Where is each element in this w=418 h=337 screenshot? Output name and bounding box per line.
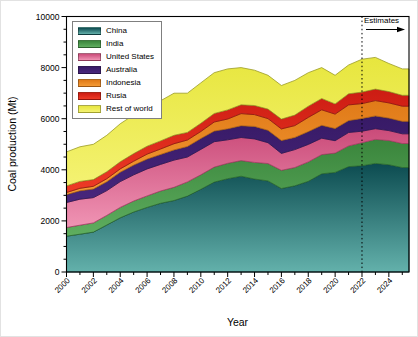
legend-swatch-china: [78, 27, 101, 35]
x-tick-label: 2010: [187, 276, 206, 295]
x-tick-label: 2002: [80, 276, 99, 295]
estimates-label: Estimates: [364, 16, 399, 25]
y-tick-label: 10000: [36, 12, 60, 22]
legend-label-rusia: Rusia: [106, 92, 126, 100]
legend-swatch-australia: [78, 66, 101, 74]
y-axis-title: Coal production (Mt): [6, 44, 20, 244]
legend-item-india: India: [78, 38, 154, 50]
x-tick-label: 2000: [53, 276, 72, 295]
x-tick-label: 2016: [268, 276, 287, 295]
x-tick-label: 2008: [160, 276, 179, 295]
legend-swatch-india: [78, 40, 101, 48]
legend: ChinaIndiaUnited StatesAustraliaIndonesi…: [72, 21, 162, 119]
legend-label-china: China: [106, 27, 127, 35]
x-axis-title: Year: [66, 316, 409, 328]
x-tick-label: 2014: [241, 276, 260, 295]
legend-label-indonesia: Indonesia: [106, 79, 141, 87]
legend-swatch-indonesia: [78, 79, 101, 87]
x-tick-label: 2022: [348, 276, 367, 295]
y-tick-label: 4000: [41, 165, 60, 175]
legend-item-china: China: [78, 25, 154, 37]
legend-item-rusia: Rusia: [78, 90, 154, 102]
x-tick-label: 2006: [134, 276, 153, 295]
coal-chart-svg: 0200040006000800010000200020022004200620…: [0, 0, 418, 337]
x-tick-label: 2012: [214, 276, 233, 295]
y-tick-label: 6000: [41, 114, 60, 124]
x-tick-label: 2004: [107, 276, 126, 295]
y-tick-label: 0: [55, 267, 60, 277]
legend-label-australia: Australia: [106, 66, 137, 74]
legend-label-india: India: [106, 40, 123, 48]
legend-item-rest-of-world: Rest of world: [78, 103, 154, 115]
figure: 0200040006000800010000200020022004200620…: [0, 0, 418, 337]
legend-swatch-rest-of-world: [78, 105, 101, 113]
legend-item-united-states: United States: [78, 51, 154, 63]
y-tick-label: 2000: [41, 216, 60, 226]
legend-item-australia: Australia: [78, 64, 154, 76]
y-tick-label: 8000: [41, 63, 60, 73]
legend-swatch-united-states: [78, 53, 101, 61]
x-tick-label: 2024: [375, 276, 394, 295]
legend-label-rest-of-world: Rest of world: [106, 105, 153, 113]
legend-swatch-rusia: [78, 92, 101, 100]
x-tick-label: 2020: [322, 276, 341, 295]
legend-label-united-states: United States: [106, 53, 154, 61]
estimates-arrow-head: [397, 27, 405, 32]
x-tick-label: 2018: [295, 276, 314, 295]
legend-item-indonesia: Indonesia: [78, 77, 154, 89]
